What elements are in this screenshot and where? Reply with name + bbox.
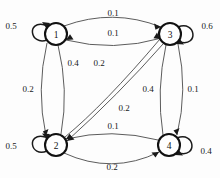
edge-label-2-3: 0.2: [93, 58, 104, 68]
node-label-3: 3: [168, 30, 173, 40]
edge-label-3-1: 0.1: [107, 28, 118, 38]
diagram-canvas: 1 3 2 4 0.5 0.5 0.6 0.4 0.1 0.1 0.2 0.4 …: [0, 0, 220, 178]
edge-4-to-2: [66, 134, 158, 140]
edge-path-4-3: [160, 45, 166, 135]
edge-label-2-1: 0.4: [67, 58, 79, 68]
edge-label-1-2: 0.2: [22, 84, 33, 94]
edge-4-to-3: [160, 39, 169, 136]
edge-2-to-1: [55, 39, 65, 135]
node-label-4: 4: [167, 141, 172, 151]
node-label-2: 2: [54, 141, 59, 151]
edge-path-2-1: [58, 45, 64, 134]
edge-path-1-3: [64, 17, 161, 27]
self-loop-label-2: 0.5: [5, 141, 17, 151]
arrowhead-3-4: [174, 128, 180, 135]
edge-label-3-4: 0.1: [187, 84, 198, 94]
self-loop-label-1: 0.5: [5, 21, 17, 31]
edge-label-1-3: 0.1: [107, 8, 118, 18]
self-loop-label-3: 0.6: [201, 21, 213, 31]
edge-path-1-2: [41, 43, 47, 136]
edge-path-3-4: [177, 44, 183, 135]
node-label-1: 1: [54, 30, 59, 40]
markov-chain-diagram: 1 3 2 4 0.5 0.5 0.6 0.4 0.1 0.1 0.2 0.4 …: [0, 0, 220, 178]
node-2[interactable]: 2: [45, 134, 67, 156]
edge-label-4-3: 0.4: [142, 84, 154, 94]
edge-path-3-1: [66, 38, 162, 46]
edge-label-2-4: 0.2: [106, 162, 117, 172]
edge-1-to-2: [41, 43, 48, 136]
node-3[interactable]: 3: [159, 23, 181, 45]
edge-label-4-2: 0.1: [107, 121, 118, 131]
edge-3-to-4: [174, 44, 183, 135]
node-1[interactable]: 1: [45, 23, 67, 45]
node-4[interactable]: 4: [158, 134, 180, 156]
edge-label-3-2: 0.2: [118, 103, 129, 113]
edge-path-4-2: [66, 134, 158, 140]
self-loop-label-4: 0.4: [200, 146, 212, 156]
